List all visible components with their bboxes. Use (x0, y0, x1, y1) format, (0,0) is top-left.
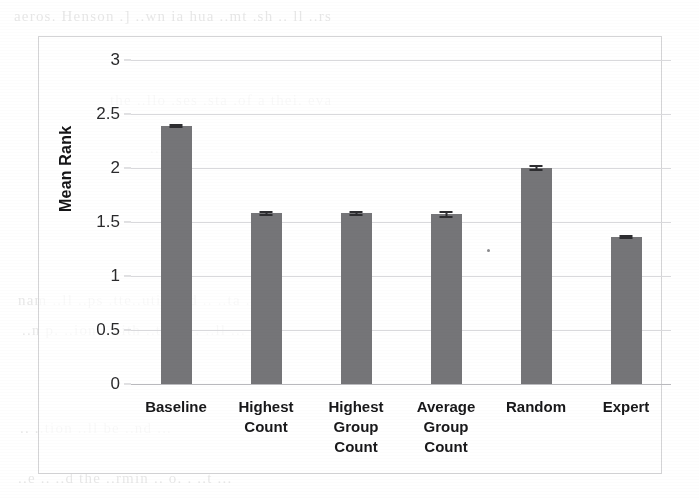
bar[interactable] (161, 126, 192, 384)
error-bar-cap-bottom (260, 214, 273, 216)
x-axis-category-label: Average Group Count (396, 397, 496, 457)
bar-group[interactable]: Average Group Count (401, 60, 491, 384)
error-bar-cap-bottom (530, 169, 543, 171)
y-tick-label: 1 (111, 266, 120, 286)
bar-group[interactable]: Highest Count (221, 60, 311, 384)
error-bar-cap-bottom (350, 214, 363, 216)
y-tick-mark (124, 222, 131, 223)
bar[interactable] (521, 168, 552, 384)
error-bar-cap-top (530, 165, 543, 167)
x-axis-line (131, 384, 671, 385)
scan-speck (487, 249, 490, 252)
bar[interactable] (251, 213, 282, 384)
y-axis-title: Mean Rank (57, 126, 75, 212)
error-bar-cap-bottom (620, 237, 633, 239)
error-bar (260, 211, 273, 215)
background-bleed-line-1: aeros. Henson .] ..wn ia hua ..mt .sh ..… (14, 8, 332, 25)
chart-frame: Mean Rank 32.521.510.50BaselineHighest C… (38, 36, 662, 474)
y-tick-label: 0.5 (96, 320, 120, 340)
y-tick-mark (124, 384, 131, 385)
plot-area: 32.521.510.50BaselineHighest CountHighes… (131, 60, 671, 384)
y-tick-mark (124, 276, 131, 277)
y-tick-mark (124, 330, 131, 331)
bar-group[interactable]: Highest Group Count (311, 60, 401, 384)
bar[interactable] (611, 237, 642, 384)
y-tick-mark (124, 168, 131, 169)
error-bar (350, 211, 363, 215)
bar[interactable] (341, 213, 372, 384)
error-bar (440, 211, 453, 217)
y-tick-label: 2 (111, 158, 120, 178)
bar-group[interactable]: Baseline (131, 60, 221, 384)
bar-group[interactable]: Expert (581, 60, 671, 384)
error-bar (530, 165, 543, 171)
x-axis-category-label: Baseline (126, 397, 226, 417)
y-tick-label: 2.5 (96, 104, 120, 124)
x-axis-category-label: Highest Count (216, 397, 316, 437)
y-tick-label: 3 (111, 50, 120, 70)
x-axis-category-label: Random (486, 397, 586, 417)
error-bar-cap-top (440, 211, 453, 213)
x-axis-category-label: Highest Group Count (306, 397, 406, 457)
bar[interactable] (431, 214, 462, 384)
y-tick-mark (124, 114, 131, 115)
x-axis-category-label: Expert (576, 397, 676, 417)
y-tick-label: 0 (111, 374, 120, 394)
error-bar-cap-bottom (440, 216, 453, 218)
error-bar (620, 235, 633, 239)
error-bar (170, 124, 183, 128)
y-tick-mark (124, 60, 131, 61)
bar-group[interactable]: Random (491, 60, 581, 384)
error-bar-cap-bottom (170, 126, 183, 128)
y-tick-label: 1.5 (96, 212, 120, 232)
